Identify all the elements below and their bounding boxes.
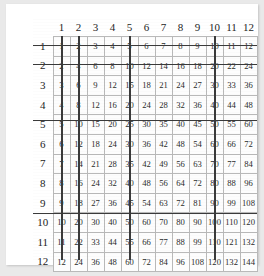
cell-12-6: 72 bbox=[138, 252, 155, 272]
cell-1-9: 9 bbox=[189, 37, 206, 57]
cell-1-7: 7 bbox=[155, 37, 172, 57]
table-row: 1 1 2 3 4 5 6 7 8 9 10 11 12 bbox=[33, 37, 257, 57]
cell-7-12: 84 bbox=[240, 154, 257, 174]
cell-1-2: 2 bbox=[70, 37, 87, 57]
cell-7-11: 77 bbox=[223, 154, 240, 174]
cell-2-2: 4 bbox=[70, 56, 87, 76]
cell-1-10: 10 bbox=[206, 37, 223, 57]
cell-4-10: 40 bbox=[206, 95, 223, 115]
cell-3-9: 27 bbox=[189, 76, 206, 96]
cell-1-11: 11 bbox=[223, 37, 240, 57]
cell-8-12: 96 bbox=[240, 174, 257, 194]
cell-8-4: 32 bbox=[104, 174, 121, 194]
cell-9-8: 72 bbox=[172, 193, 189, 213]
cell-11-4: 44 bbox=[104, 232, 121, 252]
table-row: 10 10 20 30 40 50 60 70 80 90 100 110 12… bbox=[33, 213, 257, 233]
cell-12-7: 84 bbox=[155, 252, 172, 272]
cell-10-6: 60 bbox=[138, 213, 155, 233]
cell-3-6: 18 bbox=[138, 76, 155, 96]
table-row: 11 11 22 33 44 55 66 77 88 99 110 121 13… bbox=[33, 232, 257, 252]
column-header-1: 1 bbox=[53, 18, 70, 37]
cell-5-2: 10 bbox=[70, 115, 87, 135]
cell-11-5: 55 bbox=[121, 232, 138, 252]
cell-10-12: 120 bbox=[240, 213, 257, 233]
cell-9-6: 54 bbox=[138, 193, 155, 213]
cell-12-5: 60 bbox=[121, 252, 138, 272]
cell-7-6: 42 bbox=[138, 154, 155, 174]
cell-4-1: 4 bbox=[53, 95, 70, 115]
cell-8-3: 24 bbox=[87, 174, 104, 194]
cell-8-6: 48 bbox=[138, 174, 155, 194]
column-header-8: 8 bbox=[172, 18, 189, 37]
row-header-6: 6 bbox=[33, 134, 53, 154]
cell-12-4: 48 bbox=[104, 252, 121, 272]
cell-6-9: 54 bbox=[189, 134, 206, 154]
cell-2-8: 16 bbox=[172, 56, 189, 76]
cell-5-7: 35 bbox=[155, 115, 172, 135]
cell-9-1: 9 bbox=[53, 193, 70, 213]
cell-5-3: 15 bbox=[87, 115, 104, 135]
cell-7-3: 21 bbox=[87, 154, 104, 174]
cell-10-9: 90 bbox=[189, 213, 206, 233]
cell-9-12: 108 bbox=[240, 193, 257, 213]
table-row: 9 9 18 27 36 45 54 63 72 81 90 99 108 bbox=[33, 193, 257, 213]
table-row: 6 6 12 18 24 30 36 42 48 54 60 66 72 bbox=[33, 134, 257, 154]
cell-4-9: 36 bbox=[189, 95, 206, 115]
cell-11-1: 11 bbox=[53, 232, 70, 252]
column-header-4: 4 bbox=[104, 18, 121, 37]
column-header-12: 12 bbox=[240, 18, 257, 37]
cell-2-1: 2 bbox=[53, 56, 70, 76]
row-header-4: 4 bbox=[33, 95, 53, 115]
cell-1-1: 1 bbox=[53, 37, 70, 57]
table-row: 4 4 8 12 16 20 24 28 32 36 40 44 48 bbox=[33, 95, 257, 115]
table-body: 1 1 2 3 4 5 6 7 8 9 10 11 12 2 2 bbox=[33, 37, 257, 272]
cell-1-5: 5 bbox=[121, 37, 138, 57]
cell-8-9: 72 bbox=[189, 174, 206, 194]
cell-11-8: 88 bbox=[172, 232, 189, 252]
cell-5-4: 20 bbox=[104, 115, 121, 135]
cell-11-6: 66 bbox=[138, 232, 155, 252]
cell-12-10: 120 bbox=[206, 252, 223, 272]
page-sheet: 1 2 3 4 5 6 7 8 9 10 11 12 1 1 bbox=[6, 4, 258, 265]
cell-4-11: 44 bbox=[223, 95, 240, 115]
cell-4-2: 8 bbox=[70, 95, 87, 115]
cell-5-6: 30 bbox=[138, 115, 155, 135]
cell-1-6: 6 bbox=[138, 37, 155, 57]
cell-6-5: 30 bbox=[121, 134, 138, 154]
cell-7-7: 49 bbox=[155, 154, 172, 174]
cell-5-1: 5 bbox=[53, 115, 70, 135]
row-header-9: 9 bbox=[33, 193, 53, 213]
cell-3-2: 6 bbox=[70, 76, 87, 96]
cell-2-12: 24 bbox=[240, 56, 257, 76]
cell-11-10: 110 bbox=[206, 232, 223, 252]
cell-9-7: 63 bbox=[155, 193, 172, 213]
cell-2-7: 14 bbox=[155, 56, 172, 76]
cell-9-2: 18 bbox=[70, 193, 87, 213]
cell-10-7: 70 bbox=[155, 213, 172, 233]
cell-10-10: 100 bbox=[206, 213, 223, 233]
cell-4-8: 32 bbox=[172, 95, 189, 115]
cell-7-2: 14 bbox=[70, 154, 87, 174]
cell-3-11: 33 bbox=[223, 76, 240, 96]
cell-4-4: 16 bbox=[104, 95, 121, 115]
column-header-5: 5 bbox=[121, 18, 138, 37]
cell-9-10: 90 bbox=[206, 193, 223, 213]
column-header-7: 7 bbox=[155, 18, 172, 37]
cell-3-12: 36 bbox=[240, 76, 257, 96]
cell-7-4: 28 bbox=[104, 154, 121, 174]
cell-8-2: 16 bbox=[70, 174, 87, 194]
cell-2-5: 10 bbox=[121, 56, 138, 76]
cell-3-8: 24 bbox=[172, 76, 189, 96]
row-header-8: 8 bbox=[33, 174, 53, 194]
cell-8-7: 56 bbox=[155, 174, 172, 194]
cell-9-3: 27 bbox=[87, 193, 104, 213]
cell-11-3: 33 bbox=[87, 232, 104, 252]
row-header-10: 10 bbox=[33, 213, 53, 233]
cell-6-2: 12 bbox=[70, 134, 87, 154]
cell-3-1: 3 bbox=[53, 76, 70, 96]
cell-2-9: 18 bbox=[189, 56, 206, 76]
cell-1-4: 4 bbox=[104, 37, 121, 57]
cell-10-1: 10 bbox=[53, 213, 70, 233]
row-header-2: 2 bbox=[33, 56, 53, 76]
cell-11-7: 77 bbox=[155, 232, 172, 252]
